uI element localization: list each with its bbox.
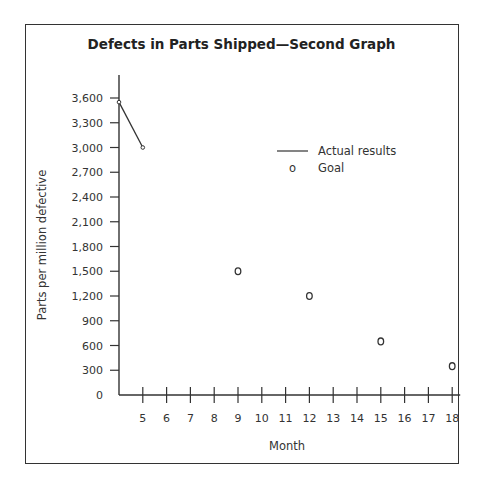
x-axis-label: Month bbox=[269, 439, 305, 453]
x-tick-label: 10 bbox=[255, 412, 269, 425]
y-tick-label: 2,400 bbox=[72, 191, 104, 204]
goal-marker-icon bbox=[449, 363, 455, 370]
y-tick-label: 2,100 bbox=[72, 216, 104, 229]
x-axis-ticks: 56789101112131415161718 bbox=[139, 387, 459, 425]
legend-goal-marker-icon: o bbox=[289, 161, 296, 175]
legend: Actual results o Goal bbox=[277, 144, 396, 175]
y-axis-label: Parts per million defective bbox=[35, 170, 49, 320]
x-tick-label: 16 bbox=[398, 412, 412, 425]
goal-marker-icon bbox=[235, 268, 241, 275]
y-tick-label: 1,500 bbox=[72, 265, 104, 278]
legend-goal-label: Goal bbox=[318, 161, 344, 175]
y-tick-label: 300 bbox=[82, 364, 103, 377]
x-tick-label: 17 bbox=[421, 412, 435, 425]
y-tick-label: 3,000 bbox=[72, 142, 104, 155]
y-axis-ticks: 03006009001,2001,5001,8002,1002,4002,700… bbox=[72, 92, 120, 402]
x-tick-label: 6 bbox=[163, 412, 170, 425]
y-tick-label: 1,200 bbox=[72, 290, 104, 303]
x-tick-label: 18 bbox=[445, 412, 459, 425]
actual-results-line bbox=[119, 102, 143, 147]
goal-marker-icon bbox=[307, 293, 313, 300]
x-tick-label: 9 bbox=[235, 412, 242, 425]
legend-actual-label: Actual results bbox=[318, 144, 396, 158]
goal-marker-icon bbox=[378, 338, 384, 345]
actual-point-icon bbox=[141, 146, 145, 150]
y-tick-label: 900 bbox=[82, 315, 103, 328]
plot-area: 03006009001,2001,5001,8002,1002,4002,700… bbox=[0, 0, 483, 495]
axes bbox=[119, 75, 460, 395]
actual-point-icon bbox=[117, 100, 121, 104]
x-tick-label: 7 bbox=[187, 412, 194, 425]
x-tick-label: 8 bbox=[211, 412, 218, 425]
y-tick-label: 600 bbox=[82, 340, 103, 353]
data-series bbox=[117, 100, 455, 369]
y-tick-label: 3,300 bbox=[72, 117, 104, 130]
x-tick-label: 14 bbox=[350, 412, 364, 425]
y-tick-label: 1,800 bbox=[72, 241, 104, 254]
x-tick-label: 11 bbox=[279, 412, 293, 425]
y-tick-label: 2,700 bbox=[72, 166, 104, 179]
x-tick-label: 5 bbox=[139, 412, 146, 425]
x-tick-label: 12 bbox=[302, 412, 316, 425]
x-tick-label: 15 bbox=[374, 412, 388, 425]
y-tick-label: 0 bbox=[96, 389, 103, 402]
y-tick-label: 3,600 bbox=[72, 92, 104, 105]
x-tick-label: 13 bbox=[326, 412, 340, 425]
